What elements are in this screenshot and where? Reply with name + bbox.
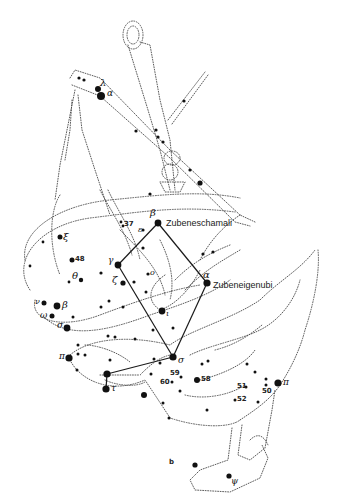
label-50: 50 [262, 388, 272, 395]
label-beta: β [150, 208, 156, 218]
label-sigma-left: σ [57, 321, 63, 330]
label-51: 51 [237, 383, 247, 390]
label-alpha: α [203, 270, 210, 280]
constellation-lines [106, 223, 207, 389]
star-name-zubeneigenubi: Zubeneigenubi [213, 281, 273, 290]
stars [29, 76, 282, 478]
label-37: 37 [124, 221, 134, 228]
label-pi-left: π [59, 352, 65, 361]
label-lambda: λ [100, 78, 106, 88]
constellation-diagram [0, 0, 341, 504]
label-iota: ι [166, 310, 169, 318]
label-sigma: σ [178, 356, 184, 365]
label-59: 59 [170, 370, 180, 377]
figure-outlines [24, 21, 319, 492]
label-theta: θ [72, 271, 78, 281]
label-omega: ω [40, 311, 47, 320]
label-zeta: ζ [112, 275, 117, 285]
label-pi-right: π [283, 378, 289, 387]
label-52: 52 [237, 396, 247, 403]
label-tau: τ [111, 384, 116, 393]
label-60: 60 [160, 379, 170, 386]
label-48: 48 [75, 256, 85, 263]
label-nu: ν [35, 298, 40, 306]
label-omicron: o [150, 269, 155, 277]
panel-label: b [169, 459, 174, 466]
label-58: 58 [201, 376, 211, 383]
label-xi: ξ [63, 232, 69, 242]
label-alpha-top: α [107, 89, 113, 98]
star-name-zubeneschamali: Zubeneschamali [166, 219, 232, 228]
label-epsilon: ε [138, 226, 142, 234]
label-psi: ψ [231, 477, 238, 486]
label-beta-left: β [62, 300, 68, 310]
label-gamma: γ [108, 256, 113, 265]
